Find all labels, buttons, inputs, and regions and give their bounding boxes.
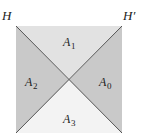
svg-text:A: A (98, 75, 107, 89)
label-h-prime: H′ (122, 8, 135, 23)
svg-text:3: 3 (71, 118, 76, 128)
svg-text:1: 1 (71, 41, 76, 51)
svg-text:A: A (62, 35, 71, 49)
svg-text:A: A (24, 75, 33, 89)
svg-text:A: A (62, 112, 71, 126)
diagonal-square-diagram: H H′ A 1 A 2 A 0 A 3 (0, 0, 145, 140)
svg-text:0: 0 (107, 81, 112, 91)
label-h: H (1, 8, 12, 23)
svg-text:2: 2 (33, 81, 38, 91)
